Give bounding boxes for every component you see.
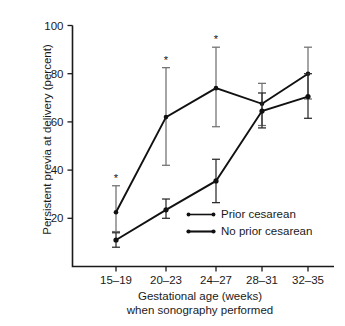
- series-line: [116, 74, 308, 213]
- x-tick-label: 24–27: [200, 274, 232, 286]
- x-tick-label: 28–31: [246, 274, 278, 286]
- significance-asterisk: *: [114, 172, 119, 184]
- chart-legend: Prior cesarean No prior cesarean: [186, 206, 312, 240]
- legend-item-no-prior-cesarean: No prior cesarean: [186, 223, 312, 240]
- x-axis-title: Gestational age (weeks) when sonography …: [60, 289, 340, 317]
- data-point: [164, 115, 169, 120]
- legend-item-prior-cesarean: Prior cesarean: [186, 206, 312, 223]
- series-prior-cesarean: ***: [112, 33, 312, 231]
- x-axis-title-line1: Gestational age (weeks): [60, 289, 340, 303]
- x-tick-label: 20–23: [150, 274, 182, 286]
- x-axis-tick-labels: 15–1920–2324–2728–3132–35: [100, 274, 324, 286]
- data-point: [163, 207, 168, 212]
- legend-marker-line-icon: [186, 226, 216, 237]
- legend-label: No prior cesarean: [221, 223, 312, 240]
- data-point: [114, 210, 119, 215]
- significance-asterisk: *: [164, 54, 169, 66]
- data-point: [305, 94, 310, 99]
- data-point: [259, 108, 264, 113]
- data-point: [113, 237, 118, 242]
- legend-label: Prior cesarean: [221, 206, 296, 223]
- x-axis-title-line2: when sonography performed: [60, 303, 340, 317]
- data-point: [214, 86, 219, 91]
- x-tick-label: 15–19: [100, 274, 132, 286]
- x-tick-label: 32–35: [292, 274, 324, 286]
- data-point: [213, 178, 218, 183]
- chart-figure: *** 20406080100 15–1920–2324–2728–3132–3…: [0, 0, 345, 326]
- legend-marker-line-icon: [186, 209, 216, 220]
- y-axis-title: Persistent previa at delivery (percent): [41, 15, 54, 265]
- significance-asterisk: *: [214, 33, 219, 45]
